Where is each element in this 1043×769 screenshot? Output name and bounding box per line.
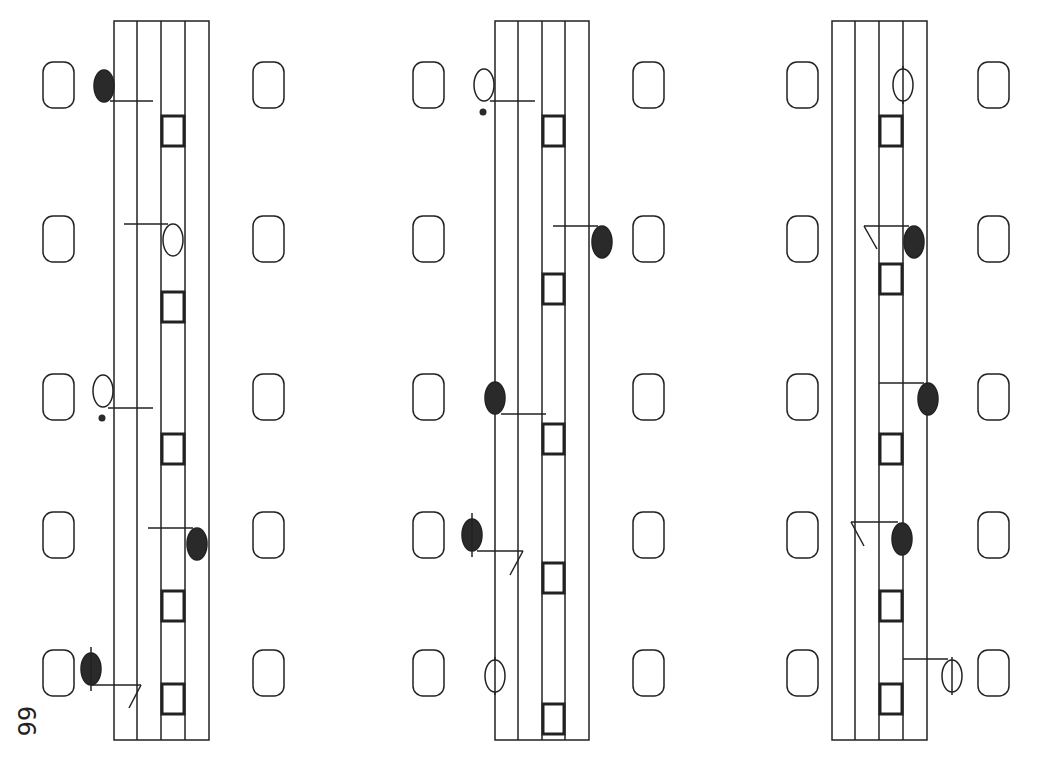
rest-box (880, 684, 902, 714)
right-box (978, 374, 1009, 420)
left-box (413, 216, 444, 262)
note-dot (480, 109, 487, 116)
right-box (633, 650, 664, 696)
right-box (253, 374, 284, 420)
right-box (978, 650, 1009, 696)
filled-note (94, 70, 114, 102)
note-dot (99, 415, 106, 422)
filled-note (904, 226, 924, 258)
tablature-diagram (0, 0, 1043, 769)
left-box (413, 62, 444, 108)
left-box (413, 512, 444, 558)
note-flag (129, 685, 141, 708)
right-box (633, 374, 664, 420)
rest-box (543, 274, 564, 304)
left-box (43, 374, 74, 420)
right-box (978, 62, 1009, 108)
note-flag (851, 522, 864, 546)
rest-box (543, 424, 564, 454)
left-box (787, 512, 818, 558)
left-box (787, 216, 818, 262)
right-box (633, 62, 664, 108)
rest-box (543, 563, 564, 593)
rest-box (880, 591, 902, 621)
left-box (43, 216, 74, 262)
right-box (253, 512, 284, 558)
rest-box (162, 591, 184, 621)
right-box (253, 62, 284, 108)
right-box (253, 216, 284, 262)
filled-note (187, 528, 207, 560)
left-box (787, 62, 818, 108)
rest-box (162, 684, 184, 714)
filled-note (918, 383, 938, 415)
open-note (474, 69, 494, 101)
filled-note (485, 382, 505, 414)
note-flag (864, 226, 877, 249)
rest-box (162, 292, 184, 322)
left-box (43, 512, 74, 558)
rest-box (162, 116, 184, 146)
left-box (787, 650, 818, 696)
rest-box (543, 116, 564, 146)
left-box (43, 62, 74, 108)
note-flag (510, 551, 523, 575)
open-note (163, 224, 183, 256)
left-box (43, 650, 74, 696)
rest-box (543, 704, 564, 734)
left-box (787, 374, 818, 420)
rest-box (162, 434, 184, 464)
left-box (413, 650, 444, 696)
rest-box (880, 116, 902, 146)
right-box (633, 512, 664, 558)
filled-note (592, 226, 612, 258)
left-box (413, 374, 444, 420)
filled-note (892, 523, 912, 555)
rest-box (880, 434, 902, 464)
rest-box (880, 264, 902, 294)
right-box (633, 216, 664, 262)
page-number: 66 (11, 701, 41, 741)
right-box (253, 650, 284, 696)
right-box (978, 512, 1009, 558)
open-note (93, 375, 113, 407)
right-box (978, 216, 1009, 262)
